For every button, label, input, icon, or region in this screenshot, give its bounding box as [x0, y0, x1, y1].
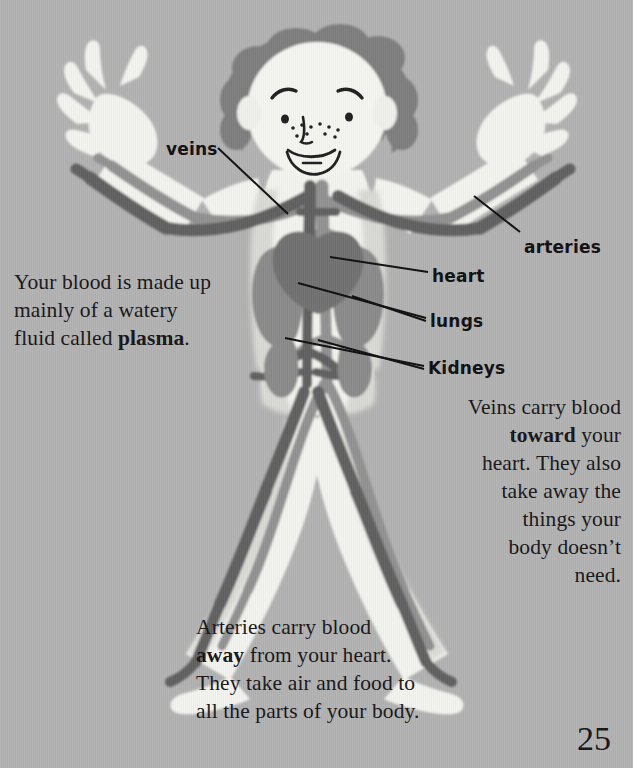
veins-line-6: body doesn’t — [509, 535, 621, 559]
veins-keyword: toward — [509, 423, 575, 447]
veins-line-1: Veins carry blood — [468, 395, 621, 419]
label-veins: veins — [166, 139, 218, 159]
leader-veins — [218, 148, 288, 214]
arteries-line-3: They take air and food to — [196, 671, 415, 695]
leader-kidneys-right — [318, 340, 424, 369]
label-heart: heart — [432, 266, 485, 286]
plasma-line-3-suffix: . — [184, 326, 189, 350]
page-number: 25 — [577, 720, 611, 758]
label-lungs: lungs — [430, 311, 483, 331]
arteries-line-2-suffix: from your heart. — [244, 643, 391, 667]
leader-kidneys-left — [285, 338, 424, 366]
veins-line-5: things your — [523, 507, 621, 531]
leader-heart — [330, 257, 428, 272]
veins-line-7: need. — [575, 563, 621, 587]
book-page: veins arteries heart lungs Kidneys Your … — [0, 0, 633, 768]
paragraph-veins: Veins carry blood toward your heart. The… — [409, 394, 621, 590]
leader-arteries — [474, 196, 520, 232]
veins-line-3: heart. They also — [482, 451, 621, 475]
plasma-line-2: mainly of a watery — [14, 298, 178, 322]
paragraph-arteries: Arteries carry blood away from your hear… — [196, 614, 506, 726]
plasma-line-1: Your blood is made up — [14, 270, 211, 294]
plasma-line-3-prefix: fluid called — [14, 326, 118, 350]
arteries-keyword: away — [196, 643, 244, 667]
veins-line-2-suffix: your — [576, 423, 621, 447]
arteries-line-4: all the parts of your body. — [196, 699, 419, 723]
arteries-line-1: Arteries carry blood — [196, 615, 371, 639]
label-kidneys: Kidneys — [428, 358, 505, 378]
leader-lungs-right — [352, 296, 426, 321]
plasma-keyword: plasma — [118, 326, 184, 350]
label-arteries: arteries — [524, 237, 601, 257]
leader-lungs-left — [298, 283, 426, 318]
paragraph-plasma: Your blood is made up mainly of a watery… — [14, 269, 246, 353]
veins-line-4: take away the — [502, 479, 622, 503]
